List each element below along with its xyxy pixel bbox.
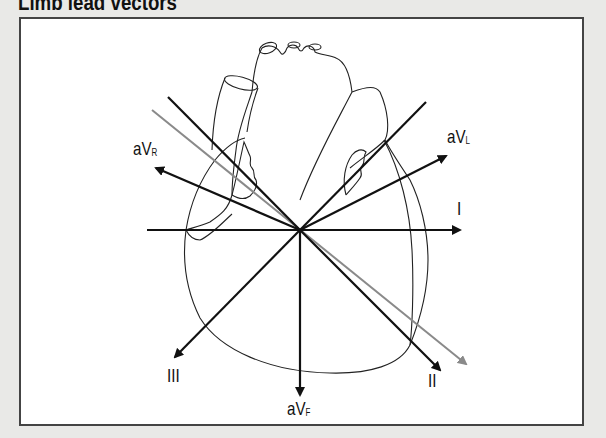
lead-avr-vector: [156, 168, 300, 230]
lead-avl-vector: [300, 156, 446, 230]
label-iii: III: [167, 365, 180, 387]
nw-se-reference-line: [168, 97, 300, 230]
limb-lead-diagram: [0, 0, 606, 438]
mean-axis-vector: [152, 110, 466, 364]
label-avf: aVF: [287, 398, 310, 420]
lead-iii-vector: [175, 230, 300, 357]
label-ii: II: [428, 370, 436, 392]
heart-outline: [185, 40, 428, 373]
label-avl: aVL: [447, 126, 470, 148]
label-avr: aVR: [133, 138, 157, 160]
label-i: I: [457, 198, 461, 220]
lead-ii-vector: [300, 230, 440, 370]
